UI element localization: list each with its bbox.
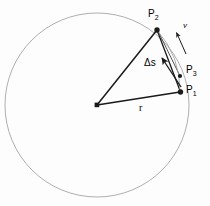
label-radius: r bbox=[139, 103, 142, 113]
point-p3-marker bbox=[178, 74, 182, 78]
velocity-arrow bbox=[177, 33, 187, 55]
label-point-p1: P1 bbox=[186, 85, 197, 97]
label-point-p2: P2 bbox=[148, 9, 159, 21]
label-delta-s: Δs bbox=[144, 58, 156, 68]
label-velocity: v bbox=[183, 21, 187, 30]
label-point-p1-letter: P bbox=[186, 84, 193, 95]
label-point-p3-letter: P bbox=[186, 64, 193, 75]
label-point-p2-subscript: 2 bbox=[155, 14, 159, 21]
circle-center-marker bbox=[95, 103, 100, 108]
chord-p2-p1 bbox=[157, 30, 181, 92]
label-point-p3-subscript: 3 bbox=[193, 70, 197, 77]
diagram-canvas bbox=[0, 0, 210, 206]
circular-motion-diagram: P2 v Δs P3 P1 r bbox=[0, 0, 210, 206]
label-point-p2-letter: P bbox=[148, 8, 155, 19]
label-point-p1-subscript: 1 bbox=[193, 90, 197, 97]
point-p2-marker bbox=[154, 27, 159, 32]
point-p1-marker bbox=[178, 89, 183, 94]
label-point-p3: P3 bbox=[186, 65, 197, 77]
